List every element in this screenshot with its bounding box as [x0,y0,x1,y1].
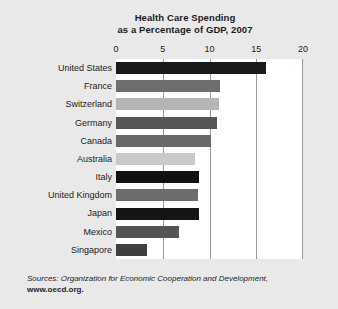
bar-row [116,204,303,222]
bar [116,208,199,220]
category-label-united-kingdom: United Kingdom [0,186,112,204]
category-label-singapore: Singapore [0,241,112,259]
category-label-canada: Canada [0,132,112,150]
x-tick-15: 15 [251,44,261,54]
source-url: www.oecd.org. [27,284,317,295]
category-label-japan: Japan [0,204,112,222]
y-axis-category-labels: United StatesFranceSwitzerlandGermanyCan… [0,59,112,259]
category-label-italy: Italy [0,168,112,186]
category-label-united-states: United States [0,59,112,77]
bar-row [116,114,303,132]
bar [116,80,220,92]
bar [116,226,179,238]
source-text: Organization for Economic Cooperation an… [61,274,268,283]
category-label-switzerland: Switzerland [0,95,112,113]
chart-title-line-1: Health Care Spending [135,12,236,23]
chart-title-line-2: as a Percentage of GDP, 2007 [60,24,310,36]
x-tick-5: 5 [160,44,165,54]
bar [116,98,219,110]
x-tick-0: 0 [113,44,118,54]
bar [116,244,147,256]
bar-row [116,186,303,204]
bar [116,117,217,129]
bar-row [116,241,303,259]
chart-title: Health Care Spending as a Percentage of … [60,12,310,36]
bar-row [116,168,303,186]
category-label-australia: Australia [0,150,112,168]
bar-row [116,223,303,241]
x-tick-20: 20 [298,44,308,54]
bar [116,171,199,183]
bar-row [116,132,303,150]
bar-row [116,59,303,77]
x-tick-10: 10 [204,44,214,54]
category-label-france: France [0,77,112,95]
plot-right-border [302,59,303,259]
category-label-germany: Germany [0,114,112,132]
bar [116,153,195,165]
chart-figure: Health Care Spending as a Percentage of … [0,0,338,309]
x-axis-tick-labels: 05101520 [0,44,338,57]
bar [116,135,211,147]
bar [116,62,266,74]
bar [116,189,198,201]
source-note: Sources: Organization for Economic Coope… [27,273,317,295]
plot-area [116,59,303,259]
bar-row [116,95,303,113]
bar-row [116,150,303,168]
category-label-mexico: Mexico [0,223,112,241]
source-prefix: Sources: [27,274,59,283]
bar-row [116,77,303,95]
